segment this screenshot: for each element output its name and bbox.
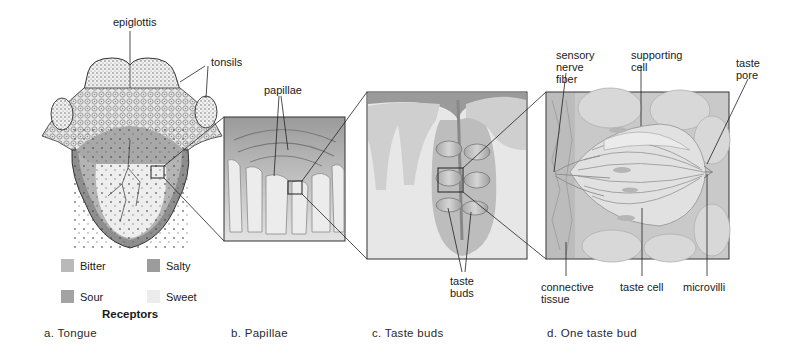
label-taste-buds-line2: buds xyxy=(450,287,474,299)
label-taste-pore-2: pore xyxy=(736,69,758,81)
label-taste-buds-line1: taste xyxy=(450,275,474,287)
label-supporting-cell-1: supporting xyxy=(631,49,682,61)
label-connective-tissue-2: tissue xyxy=(541,293,570,305)
label-connective-tissue-1: connective xyxy=(541,281,594,293)
legend-label-salty: Salty xyxy=(166,260,190,272)
swatch-salty xyxy=(147,259,160,272)
caption-taste-buds: c. Taste buds xyxy=(372,327,443,339)
legend-item-bitter: Bitter xyxy=(61,259,106,272)
label-tonsils: tonsils xyxy=(211,56,242,68)
swatch-sweet xyxy=(147,290,160,303)
caption-papillae: b. Papillae xyxy=(231,327,288,339)
label-supporting-cell-2: cell xyxy=(631,61,648,73)
single-taste-bud-drawing xyxy=(546,88,730,262)
caption-one-taste-bud: d. One taste bud xyxy=(547,327,637,339)
label-papillae: papillae xyxy=(264,84,302,96)
swatch-sour xyxy=(61,290,74,303)
papillae-drawing xyxy=(224,117,345,241)
label-epiglottis: epiglottis xyxy=(113,16,156,28)
legend-item-salty: Salty xyxy=(147,259,190,272)
swatch-bitter xyxy=(61,259,74,272)
taste-buds-drawing xyxy=(367,92,527,259)
legend-label-bitter: Bitter xyxy=(80,260,106,272)
label-sensory-nerve-fiber-1: sensory xyxy=(556,49,595,61)
legend-title: Receptors xyxy=(102,308,158,320)
label-sensory-nerve-fiber-3: fiber xyxy=(556,73,577,85)
label-microvilli: microvilli xyxy=(683,281,725,293)
caption-tongue: a. Tongue xyxy=(44,327,97,339)
label-sensory-nerve-fiber-2: nerve xyxy=(556,61,584,73)
label-taste-cell: taste cell xyxy=(620,281,663,293)
legend-item-sour: Sour xyxy=(61,290,103,303)
legend-label-sour: Sour xyxy=(80,291,103,303)
label-taste-pore-1: taste xyxy=(736,57,760,69)
legend-label-sweet: Sweet xyxy=(166,291,197,303)
legend-item-sweet: Sweet xyxy=(147,290,197,303)
tongue-drawing xyxy=(42,58,222,248)
